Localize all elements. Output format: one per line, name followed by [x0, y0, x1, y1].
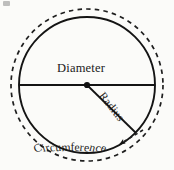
center-point	[84, 82, 90, 88]
diameter-label: Diameter	[57, 62, 105, 75]
circumference-label: Circumference	[36, 142, 104, 154]
circle-parts-figure: Diameter Radius Circumference	[0, 0, 174, 170]
